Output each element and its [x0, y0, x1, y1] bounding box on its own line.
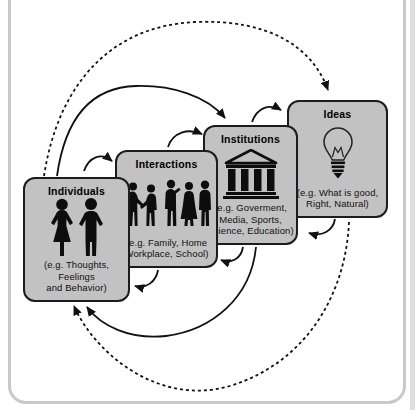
people-talking-silhouettes-icon: [123, 170, 211, 237]
box-individuals-caption: (e.g. Thoughts, Feelings and Behavior): [25, 259, 128, 293]
box-ideas-title: Ideas: [324, 108, 352, 120]
box-ideas: Ideas (e.g. What is good, Right, Natural…: [287, 100, 388, 218]
box-ideas-caption: (e.g. What is good, Right, Natural): [297, 187, 379, 209]
box-institutions-title: Institutions: [221, 133, 280, 145]
box-individuals-title: Individuals: [48, 185, 105, 197]
box-interactions-title: Interactions: [136, 158, 198, 170]
box-institutions-caption: (e.g. Goverment, Media, Sports, Science,…: [207, 202, 293, 236]
two-people-silhouettes-icon: [48, 197, 106, 259]
box-individuals: Individuals (e.g. Thoughts, Feelings and…: [23, 177, 130, 302]
box-interactions: Interactions (e: [115, 150, 218, 268]
classical-building-icon: [223, 145, 279, 202]
diagram-stage: society as individuals, interactions, in…: [0, 0, 415, 410]
box-interactions-caption: (e.g. Family, Home Workplace, School): [125, 237, 209, 259]
right-edge-gutter: [410, 0, 415, 410]
light-bulb-icon: [320, 120, 356, 187]
